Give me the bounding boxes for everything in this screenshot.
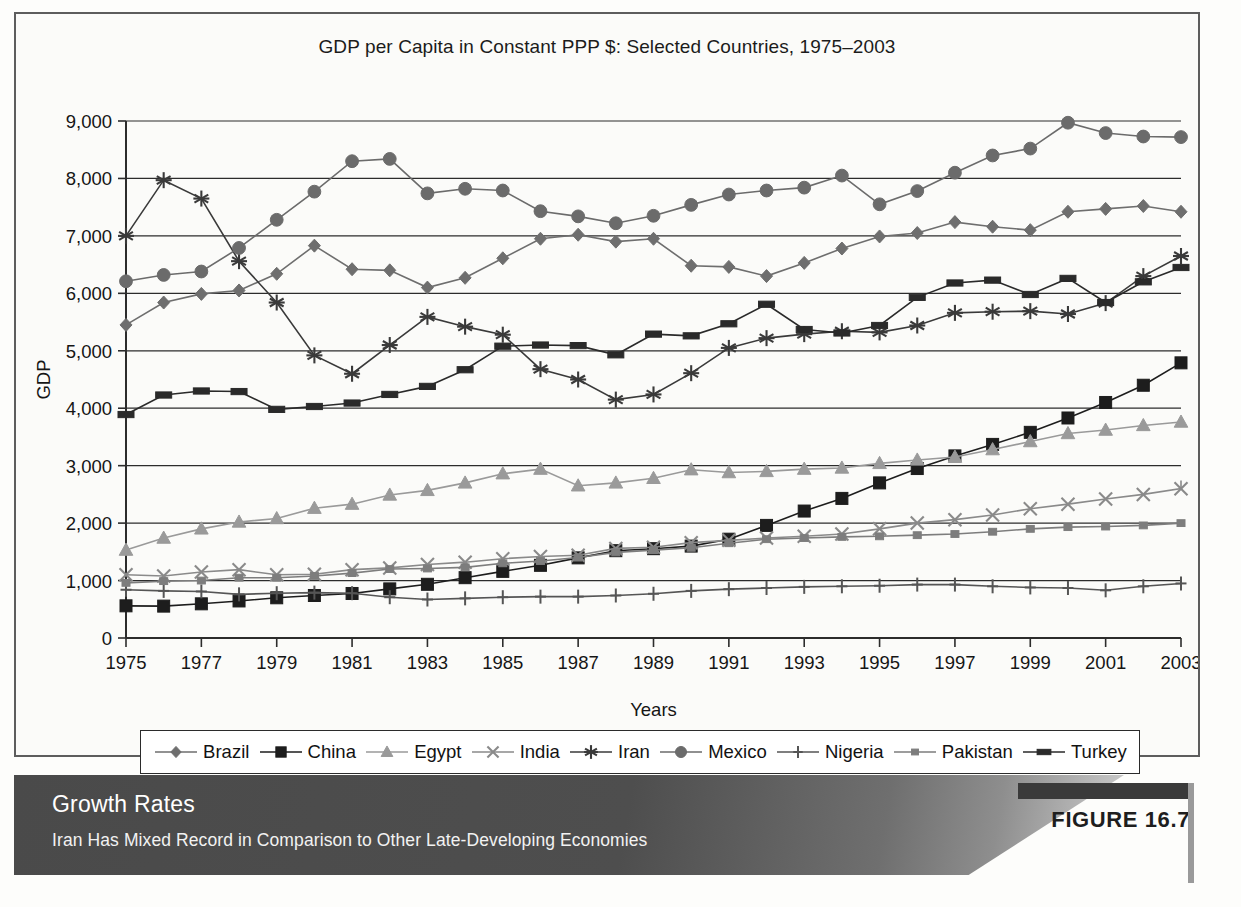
marker-plus	[1062, 581, 1073, 595]
marker-dash-block	[344, 400, 360, 406]
legend-marker-turkey	[1021, 741, 1067, 763]
marker-dash-block	[796, 326, 812, 332]
figure-number-badge: FIGURE 16.7	[1018, 783, 1190, 833]
marker-asterisk	[947, 305, 963, 321]
marker-triangle	[534, 462, 548, 474]
legend-item-pakistan[interactable]: Pakistan	[892, 741, 1013, 763]
marker-circle	[421, 187, 434, 200]
x-tick-label: 1997	[934, 652, 975, 673]
legend-item-china[interactable]: China	[258, 741, 356, 763]
series-line	[126, 422, 1181, 550]
x-tick-label: 1987	[558, 652, 599, 673]
marker-dash-block	[118, 411, 134, 417]
marker-square-small	[650, 547, 658, 554]
legend-label: Egypt	[414, 741, 461, 763]
x-tick-label: 1979	[256, 652, 297, 673]
marker-square-small	[536, 558, 544, 565]
legend-item-brazil[interactable]: Brazil	[153, 741, 249, 763]
series-mexico	[120, 116, 1188, 287]
x-tick-label: 1999	[1010, 652, 1051, 673]
legend-item-india[interactable]: India	[470, 741, 560, 763]
marker-square-small	[913, 532, 921, 539]
series-line	[126, 481, 1181, 576]
marker-square-small	[1177, 520, 1185, 527]
marker-square-small	[838, 533, 846, 540]
marker-diamond	[1137, 200, 1149, 213]
marker-dash-block	[909, 294, 925, 300]
marker-dash-block	[382, 391, 398, 397]
legend-label: Nigeria	[825, 741, 884, 763]
marker-asterisk	[419, 309, 435, 325]
x-tick-label: 1991	[708, 652, 749, 673]
legend-label: Brazil	[203, 741, 249, 763]
marker-square-small	[800, 535, 808, 542]
marker-dash-block	[570, 343, 586, 349]
marker-asterisk	[156, 172, 172, 188]
marker-asterisk	[344, 366, 360, 382]
figure-number-label: FIGURE 16.7	[1018, 807, 1190, 833]
marker-plus	[535, 590, 546, 604]
marker-diamond	[987, 220, 999, 233]
marker-plus	[686, 584, 697, 598]
y-tick-label: 1,000	[66, 571, 112, 592]
marker-plus	[1138, 579, 1149, 593]
legend-item-turkey[interactable]: Turkey	[1021, 741, 1127, 763]
marker-diamond	[723, 260, 735, 273]
legend-item-mexico[interactable]: Mexico	[658, 741, 767, 763]
marker-diamond	[233, 284, 245, 297]
marker-circle	[1099, 127, 1112, 140]
legend-label: Mexico	[708, 741, 767, 763]
marker-circle	[1137, 130, 1150, 143]
marker-circle	[383, 153, 396, 166]
marker-square	[421, 578, 433, 590]
marker-square-small	[1139, 522, 1147, 529]
marker-square-small	[461, 564, 469, 571]
y-tick-label: 8,000	[66, 168, 112, 189]
marker-square-small	[499, 560, 507, 567]
marker-circle	[459, 182, 472, 195]
marker-square	[195, 598, 207, 610]
x-tick-label: 1977	[181, 652, 222, 673]
marker-square-small	[687, 544, 695, 551]
y-axis-title: GDP	[33, 359, 54, 399]
marker-square-small	[160, 578, 168, 585]
legend-label: India	[520, 741, 560, 763]
marker-square-small	[574, 554, 582, 561]
marker-circle	[308, 185, 321, 198]
marker-diamond	[761, 270, 773, 283]
marker-circle	[1024, 142, 1037, 155]
marker-dash-block	[193, 388, 209, 394]
marker-square	[459, 572, 471, 584]
x-tick-label: 1981	[331, 652, 372, 673]
legend-item-egypt[interactable]: Egypt	[364, 741, 461, 763]
marker-dash-block	[872, 322, 888, 328]
marker-dash-block	[834, 330, 850, 336]
legend-item-iran[interactable]: Iran	[568, 741, 650, 763]
marker-diamond	[158, 296, 170, 309]
marker-diamond	[572, 228, 584, 241]
line-chart-plot: 01,0002,0003,0004,0005,0006,0007,0008,00…	[16, 72, 1198, 722]
x-tick-label: 1975	[105, 652, 146, 673]
caption-background	[14, 775, 1124, 875]
marker-square-small	[876, 533, 884, 540]
marker-diamond	[798, 256, 810, 269]
marker-dash-block	[419, 383, 435, 389]
marker-square	[1137, 379, 1149, 391]
marker-diamond	[271, 267, 283, 280]
chart-title: GDP per Capita in Constant PPP $: Select…	[16, 36, 1198, 58]
marker-dash-block	[306, 403, 322, 409]
marker-dash-block	[495, 343, 511, 349]
marker-asterisk	[570, 372, 586, 388]
marker-asterisk	[193, 191, 209, 207]
marker-plus	[460, 591, 471, 605]
marker-square-small	[197, 577, 205, 584]
marker-square-small	[386, 566, 394, 573]
marker-plus	[799, 580, 810, 594]
legend-label: China	[308, 741, 356, 763]
marker-square-small	[1064, 524, 1072, 531]
marker-asterisk	[1022, 303, 1038, 319]
marker-diamond	[534, 232, 546, 245]
marker-diamond	[1175, 205, 1187, 218]
legend-item-nigeria[interactable]: Nigeria	[775, 741, 884, 763]
marker-dash-block	[1037, 749, 1051, 754]
